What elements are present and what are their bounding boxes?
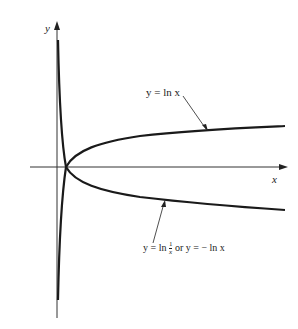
curve-neg-ln-x xyxy=(58,40,285,210)
x-axis-arrow-icon xyxy=(279,164,288,170)
curve1-label: y = ln x xyxy=(146,86,180,98)
y-axis-label: y xyxy=(45,22,50,34)
curve1-leader xyxy=(183,96,206,129)
curve1-label-text: y = ln x xyxy=(146,86,180,98)
graph xyxy=(0,0,298,329)
curve2-leader-arrow-icon xyxy=(161,200,166,207)
fraction-denominator: x xyxy=(169,249,173,256)
y-axis-arrow-icon xyxy=(54,21,60,30)
curve2-leader xyxy=(153,203,164,243)
fraction: 1 x xyxy=(169,241,173,256)
curve2-label: y = ln 1 x or y = − ln x xyxy=(143,241,225,256)
curve-ln-x xyxy=(58,126,285,300)
curve2-label-part1: y = ln xyxy=(143,242,166,253)
curve2-label-part2: or y = − ln x xyxy=(175,242,225,253)
x-axis-label: x xyxy=(272,173,277,185)
